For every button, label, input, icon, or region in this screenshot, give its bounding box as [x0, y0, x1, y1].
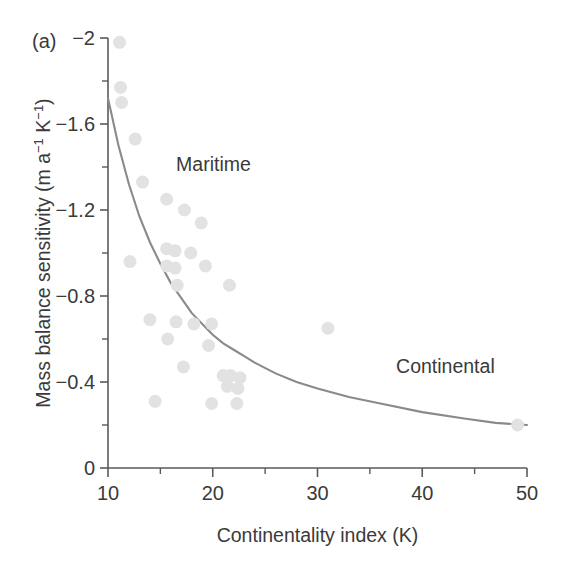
y-tick-label: −1.6	[56, 113, 95, 135]
data-point	[114, 81, 127, 94]
x-tick-label: 30	[306, 482, 328, 504]
y-axis-title: Mass balance sensitivity (m a−1 K−1)	[31, 98, 54, 407]
y-tick-label: −2	[72, 27, 95, 49]
data-point	[511, 419, 524, 432]
y-tick-label: −0.4	[56, 371, 95, 393]
y-tick-label: 0	[84, 457, 95, 479]
data-point	[149, 395, 162, 408]
plot-annotation: Continental	[396, 355, 495, 377]
data-point	[233, 371, 246, 384]
data-point	[129, 133, 142, 146]
data-point	[199, 259, 212, 272]
panel-label: (a)	[32, 30, 56, 52]
data-point	[169, 244, 182, 257]
y-tick-label: −1.2	[56, 199, 95, 221]
data-point	[202, 339, 215, 352]
scatter-plot: −2−1.6−1.2−0.8−0.401020304050MaritimeCon…	[0, 0, 564, 562]
x-tick-label: 50	[516, 482, 538, 504]
data-point	[205, 397, 218, 410]
data-point	[321, 322, 334, 335]
data-point	[143, 313, 156, 326]
data-point	[136, 176, 149, 189]
data-point	[184, 247, 197, 260]
data-point	[169, 262, 182, 275]
data-point	[187, 317, 200, 330]
data-point	[205, 317, 218, 330]
data-point	[160, 193, 173, 206]
data-point	[178, 204, 191, 217]
data-point	[230, 397, 243, 410]
data-point	[195, 216, 208, 229]
data-point	[177, 360, 190, 373]
data-point	[171, 279, 184, 292]
x-axis-title: Continentality index (K)	[217, 524, 419, 546]
data-point	[124, 255, 137, 268]
data-point	[223, 279, 236, 292]
plot-annotation: Maritime	[176, 153, 251, 175]
x-tick-label: 10	[97, 482, 119, 504]
x-tick-label: 20	[202, 482, 224, 504]
y-tick-label: −0.8	[56, 285, 95, 307]
data-point	[161, 333, 174, 346]
data-point	[113, 36, 126, 49]
x-tick-label: 40	[411, 482, 433, 504]
data-point	[170, 315, 183, 328]
data-point	[231, 382, 244, 395]
data-point	[115, 96, 128, 109]
figure-panel-a: −2−1.6−1.2−0.8−0.401020304050MaritimeCon…	[0, 0, 564, 562]
